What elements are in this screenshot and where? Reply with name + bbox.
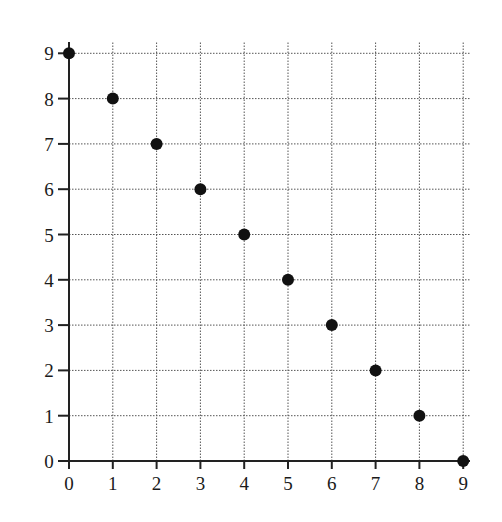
data-point bbox=[63, 47, 75, 59]
y-tick-label: 9 bbox=[44, 43, 54, 64]
data-point bbox=[151, 138, 163, 150]
y-tick-label: 7 bbox=[44, 134, 54, 155]
y-tick-label: 2 bbox=[44, 360, 54, 381]
y-tick-label: 0 bbox=[44, 451, 54, 472]
grid-lines bbox=[69, 42, 470, 461]
x-tick-label: 8 bbox=[415, 473, 425, 494]
y-tick-label: 6 bbox=[44, 179, 54, 200]
data-point bbox=[370, 364, 382, 376]
x-tick-labels: 0123456789 bbox=[64, 473, 468, 494]
x-tick-label: 5 bbox=[283, 473, 293, 494]
axis-ticks bbox=[58, 53, 463, 469]
data-point bbox=[326, 319, 338, 331]
x-tick-label: 2 bbox=[152, 473, 162, 494]
y-tick-label: 5 bbox=[44, 225, 54, 246]
y-tick-label: 4 bbox=[44, 270, 54, 291]
y-tick-label: 8 bbox=[44, 89, 54, 110]
data-point bbox=[194, 183, 206, 195]
data-points bbox=[63, 47, 469, 467]
x-tick-label: 9 bbox=[458, 473, 468, 494]
x-tick-label: 4 bbox=[239, 473, 249, 494]
y-tick-labels: 0123456789 bbox=[44, 43, 54, 472]
y-tick-label: 1 bbox=[44, 406, 54, 427]
axes bbox=[69, 42, 470, 469]
data-point bbox=[413, 410, 425, 422]
x-tick-label: 7 bbox=[371, 473, 381, 494]
data-point bbox=[107, 93, 119, 105]
data-point bbox=[238, 229, 250, 241]
data-point bbox=[282, 274, 294, 286]
scatter-chart: 0123456789 0123456789 bbox=[0, 0, 502, 522]
data-point bbox=[457, 455, 469, 467]
x-tick-label: 6 bbox=[327, 473, 337, 494]
x-tick-label: 0 bbox=[64, 473, 74, 494]
x-tick-label: 3 bbox=[196, 473, 206, 494]
x-tick-label: 1 bbox=[108, 473, 118, 494]
y-tick-label: 3 bbox=[44, 315, 54, 336]
